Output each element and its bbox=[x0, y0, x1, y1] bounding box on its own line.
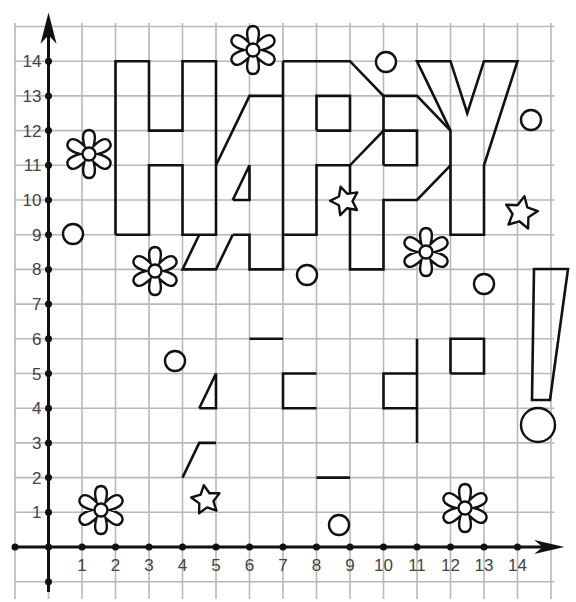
y-tick-label: 3 bbox=[32, 434, 41, 453]
tick-dot bbox=[12, 544, 19, 551]
x-tick-dot bbox=[347, 544, 354, 551]
x-tick-label: 9 bbox=[345, 556, 354, 575]
x-tick-label: 11 bbox=[408, 556, 426, 575]
x-tick-dot bbox=[179, 544, 186, 551]
y-tick-dot bbox=[45, 439, 52, 446]
flower-center bbox=[459, 502, 472, 515]
x-tick-dot bbox=[380, 544, 387, 551]
x-tick-label: 12 bbox=[441, 556, 460, 575]
x-tick-label: 14 bbox=[508, 556, 527, 575]
y-tick-label: 4 bbox=[32, 399, 41, 418]
y-tick-dot bbox=[45, 405, 52, 412]
slant-piece bbox=[183, 443, 217, 478]
letter-p1-hole bbox=[317, 96, 351, 131]
x-tick-label: 4 bbox=[178, 556, 187, 575]
y-tick-label: 8 bbox=[32, 260, 41, 279]
letter-p2-hole bbox=[384, 131, 418, 166]
x-tick-dot bbox=[414, 544, 421, 551]
x-tick-label: 10 bbox=[374, 556, 393, 575]
exclamation-bar bbox=[532, 269, 568, 400]
letter-y bbox=[417, 61, 518, 235]
y-tick-dot bbox=[45, 197, 52, 204]
circle-icon bbox=[376, 52, 396, 72]
y-tick-label: 10 bbox=[23, 191, 42, 210]
y-tick-dot bbox=[45, 509, 52, 516]
y-tick-dot bbox=[45, 231, 52, 238]
y-tick-label: 2 bbox=[32, 469, 41, 488]
flower-center bbox=[149, 265, 162, 278]
letter-a-shifted-foot bbox=[183, 235, 233, 270]
x-tick-label: 5 bbox=[211, 556, 220, 575]
y-tick-dot bbox=[45, 301, 52, 308]
letter-a-hole bbox=[233, 165, 250, 200]
y-tick-dot bbox=[45, 266, 52, 273]
circle-decorations bbox=[63, 52, 541, 535]
x-tick-dot bbox=[112, 544, 119, 551]
bracket-piece-1 bbox=[283, 374, 317, 409]
circle-icon bbox=[329, 515, 349, 535]
exclamation-mark bbox=[521, 269, 568, 442]
bracket-piece-2 bbox=[384, 374, 418, 409]
y-tick-label: 6 bbox=[32, 330, 41, 349]
star-icon bbox=[330, 187, 357, 216]
x-tick-dot bbox=[447, 544, 454, 551]
x-tick-label: 7 bbox=[278, 556, 287, 575]
flower-icon bbox=[133, 247, 176, 295]
tick-dot bbox=[45, 578, 52, 585]
y-tick-label: 7 bbox=[32, 295, 41, 314]
x-tick-dot bbox=[79, 544, 86, 551]
letter-h bbox=[116, 61, 217, 235]
circle-icon bbox=[297, 265, 317, 285]
x-tick-label: 2 bbox=[111, 556, 120, 575]
y-tick-dot bbox=[45, 474, 52, 481]
flower-center bbox=[420, 246, 433, 259]
x-tick-dot bbox=[313, 544, 320, 551]
x-tick-label: 13 bbox=[475, 556, 494, 575]
y-tick-label: 14 bbox=[23, 52, 42, 71]
x-tick-dot bbox=[146, 544, 153, 551]
y-tick-dot bbox=[45, 58, 52, 65]
y-tick-label: 1 bbox=[32, 503, 41, 522]
flower-center bbox=[247, 44, 260, 57]
x-tick-dot bbox=[280, 544, 287, 551]
y-tick-label: 5 bbox=[32, 365, 41, 384]
x-tick-dot bbox=[481, 544, 488, 551]
y-tick-label: 9 bbox=[32, 226, 41, 245]
flower-center bbox=[95, 504, 108, 517]
x-tick-dot bbox=[246, 544, 253, 551]
circle-icon bbox=[165, 351, 185, 371]
x-tick-label: 1 bbox=[77, 556, 86, 575]
x-tick-dot bbox=[514, 544, 521, 551]
y-tick-label: 12 bbox=[23, 122, 42, 141]
y-tick-dot bbox=[45, 335, 52, 342]
x-tick-label: 6 bbox=[245, 556, 254, 575]
triangle-piece bbox=[199, 374, 216, 409]
y-tick-label: 11 bbox=[24, 156, 42, 175]
square-piece bbox=[451, 339, 485, 374]
y-tick-dot bbox=[45, 127, 52, 134]
x-tick-label: 8 bbox=[312, 556, 321, 575]
exclamation-dot bbox=[521, 408, 555, 442]
y-tick-dot bbox=[45, 92, 52, 99]
y-tick-dot bbox=[45, 162, 52, 169]
circle-icon bbox=[521, 110, 541, 130]
flower-center bbox=[83, 148, 96, 161]
x-tick-dot bbox=[213, 544, 220, 551]
circle-icon bbox=[63, 224, 83, 244]
circle-icon bbox=[474, 274, 494, 294]
flower-icon bbox=[231, 26, 274, 74]
star-icon bbox=[191, 485, 219, 513]
y-tick-dot bbox=[45, 370, 52, 377]
happy-grid-drawing: 12345678910111213141234567891011121314 bbox=[0, 0, 576, 602]
origin-dot bbox=[45, 544, 52, 551]
x-tick-label: 3 bbox=[144, 556, 153, 575]
y-tick-label: 13 bbox=[23, 87, 42, 106]
flower-icon bbox=[67, 130, 110, 178]
star-icon bbox=[506, 196, 538, 228]
